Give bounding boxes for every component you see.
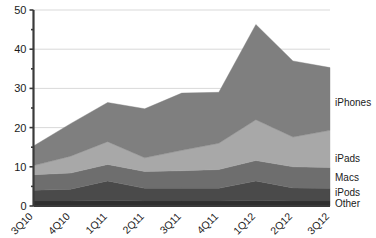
y-tick-labels: 50403020100 (14, 4, 26, 212)
x-tick-label-3Q12: 3Q12 (305, 210, 332, 237)
x-tick-label-4Q10: 4Q10 (45, 210, 72, 237)
y-tick-label: 50 (14, 4, 26, 16)
x-tick-label-4Q11: 4Q11 (194, 210, 220, 236)
legend: iPhonesiPadsMacsiPodsOther (335, 97, 371, 210)
y-tick-label: 20 (14, 122, 26, 134)
x-tick-label-1Q12: 1Q12 (231, 210, 258, 237)
legend-label-macs: Macs (335, 172, 359, 183)
x-tick-label-3Q10: 3Q10 (8, 210, 35, 237)
x-tick-label-2Q11: 2Q11 (120, 210, 146, 236)
x-tick-label-1Q11: 1Q11 (83, 210, 109, 236)
legend-label-iphones: iPhones (335, 97, 371, 108)
area-series-group (34, 25, 331, 206)
legend-label-ipods: iPods (335, 187, 360, 198)
y-tick-label: 40 (14, 43, 26, 55)
legend-label-other: Other (335, 198, 361, 209)
chart-svg: 50403020100 3Q104Q101Q112Q113Q114Q111Q12… (0, 0, 376, 238)
x-tick-labels: 3Q104Q101Q112Q113Q114Q111Q122Q123Q12 (8, 210, 331, 237)
x-tick-label-2Q12: 2Q12 (268, 210, 295, 237)
legend-label-ipads: iPads (335, 153, 360, 164)
x-tick-label-3Q11: 3Q11 (157, 210, 183, 236)
stacked-area-chart: 50403020100 3Q104Q101Q112Q113Q114Q111Q12… (0, 0, 376, 238)
y-tick-label: 30 (14, 82, 26, 94)
y-tick-label: 10 (14, 161, 26, 173)
